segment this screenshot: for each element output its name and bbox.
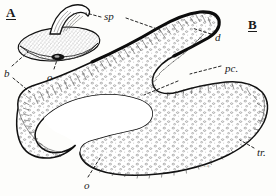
annotation-o-upper: o [47, 72, 53, 83]
annotation-sp: sp [104, 11, 114, 22]
leader-b-upper [12, 52, 28, 66]
leader-pc-a [190, 66, 221, 74]
panel-label-b: B [248, 18, 257, 32]
illustration-canvas [0, 0, 276, 196]
annotation-b: b [4, 68, 10, 79]
annotation-tr: tr. [257, 147, 266, 158]
artist-signature: e.s.q. [200, 163, 211, 169]
leader-sp-right [126, 18, 160, 30]
panel-label-a: A [6, 6, 16, 20]
annotation-d: d [215, 32, 221, 43]
annotation-pc: pc. [225, 63, 238, 74]
panel-a-opening-highlight [54, 55, 59, 58]
annotation-o-lower: o [84, 180, 90, 191]
figure-plate: A B sp b o d pc. tr. o e.s.q. [0, 0, 276, 196]
